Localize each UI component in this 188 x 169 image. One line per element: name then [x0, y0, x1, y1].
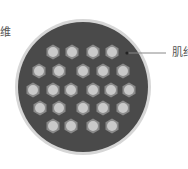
fiber-core — [48, 85, 58, 95]
fiber-core — [48, 121, 58, 131]
fiber-core — [88, 47, 98, 57]
fiber-core — [118, 66, 128, 76]
fiber-core — [67, 47, 77, 57]
muscle-fiber-label: 肌纤 — [172, 47, 188, 59]
fiber-core — [88, 85, 98, 95]
muscle-cross-section-diagram — [0, 0, 188, 169]
fiber-core — [48, 47, 58, 57]
fiber-core — [54, 103, 64, 113]
fiber-core — [78, 103, 88, 113]
fiber-core — [78, 66, 88, 76]
fiber-core — [28, 85, 38, 95]
fiber-core — [66, 85, 76, 95]
pointer-dot — [125, 51, 128, 54]
fiber-core — [124, 85, 134, 95]
left-label: 维 — [0, 27, 11, 39]
fiber-core — [118, 103, 128, 113]
fiber-core — [107, 121, 117, 131]
fiber-core — [35, 103, 45, 113]
fiber-core — [54, 66, 64, 76]
fiber-core — [98, 66, 108, 76]
fiber-core — [88, 121, 98, 131]
fiber-core — [34, 66, 44, 76]
fiber-core — [98, 103, 108, 113]
fiber-core — [66, 121, 76, 131]
fiber-core — [106, 85, 116, 95]
fiber-core — [107, 47, 117, 57]
